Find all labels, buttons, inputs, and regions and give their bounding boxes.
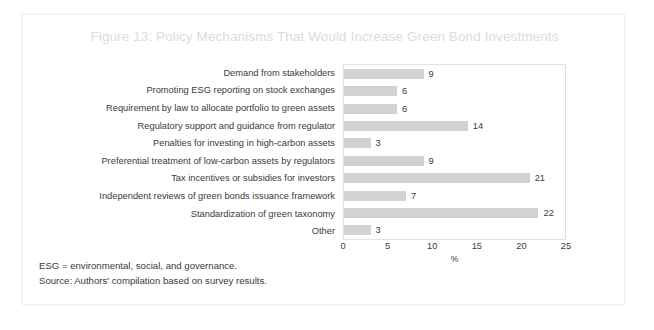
category-axis-labels: Demand from stakeholders Promoting ESG r…: [23, 64, 341, 240]
bar: [344, 191, 406, 201]
bar: [344, 69, 424, 79]
footnote-abbreviation: ESG = environmental, social, and governa…: [39, 258, 599, 273]
x-tick-label: 10: [427, 241, 437, 251]
category-label: Independent reviews of green bonds issua…: [23, 187, 341, 205]
bar-row: 3: [344, 135, 565, 152]
x-axis-ticks: 0510152025: [343, 241, 566, 255]
x-tick-label: 20: [516, 241, 526, 251]
bar-value-label: 3: [376, 225, 381, 235]
category-label: Preferential treatment of low-carbon ass…: [23, 152, 341, 170]
category-label: Standardization of green taxonomy: [23, 205, 341, 223]
bar-value-label: 14: [473, 121, 483, 131]
category-label: Requirement by law to allocate portfolio…: [23, 99, 341, 117]
bar-row: 21: [344, 169, 565, 186]
bar-row: 7: [344, 187, 565, 204]
bar-row: 6: [344, 82, 565, 99]
figure-footnotes: ESG = environmental, social, and governa…: [39, 258, 599, 288]
bar-value-label: 7: [411, 191, 416, 201]
figure-container: Figure 13: Policy Mechanisms That Would …: [22, 14, 625, 305]
figure-title: Figure 13: Policy Mechanisms That Would …: [23, 29, 626, 44]
bar: [344, 121, 468, 131]
bar-row: 14: [344, 117, 565, 134]
x-tick-label: 5: [385, 241, 390, 251]
bar-row: 22: [344, 204, 565, 221]
bar-row: 6: [344, 100, 565, 117]
category-label: Other: [23, 222, 341, 240]
category-label: Penalties for investing in high-carbon a…: [23, 134, 341, 152]
bar: [344, 86, 397, 96]
bar: [344, 173, 530, 183]
bar-value-label: 6: [402, 104, 407, 114]
bar-value-label: 21: [535, 173, 545, 183]
bar: [344, 208, 538, 218]
bar-row: 9: [344, 65, 565, 82]
bar-value-label: 6: [402, 86, 407, 96]
category-label: Demand from stakeholders: [23, 64, 341, 82]
bar-value-label: 9: [429, 69, 434, 79]
bar-series: 9 6 6 14 3: [344, 65, 565, 239]
bar-row: 3: [344, 222, 565, 239]
bar: [344, 225, 371, 235]
bar: [344, 104, 397, 114]
category-label: Promoting ESG reporting on stock exchang…: [23, 82, 341, 100]
x-tick-label: 0: [340, 241, 345, 251]
bar-value-label: 3: [376, 138, 381, 148]
bar: [344, 138, 371, 148]
category-label: Tax incentives or subsidies for investor…: [23, 170, 341, 188]
bar-row: 9: [344, 152, 565, 169]
bar: [344, 156, 424, 166]
x-tick-label: 15: [472, 241, 482, 251]
bar-chart: Demand from stakeholders Promoting ESG r…: [23, 63, 626, 248]
bar-value-label: 22: [543, 208, 553, 218]
x-tick-label: 25: [561, 241, 571, 251]
plot-area: 9 6 6 14 3: [343, 64, 566, 240]
bar-value-label: 9: [429, 156, 434, 166]
category-label: Regulatory support and guidance from reg…: [23, 117, 341, 135]
footnote-source: Source: Authors' compilation based on su…: [39, 273, 599, 288]
